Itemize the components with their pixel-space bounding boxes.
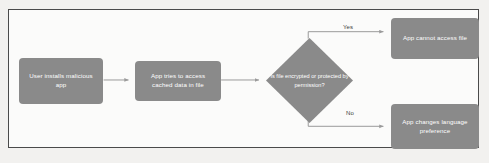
node-user-installs-malicious-app[interactable]: User installs malicious app <box>19 58 103 104</box>
node-app-changes-language-preference[interactable]: App changes language preference <box>391 104 479 149</box>
node-label: App changes language preference <box>396 118 474 136</box>
edge-label-no: No <box>346 110 354 116</box>
node-decision-is-file-encrypted[interactable]: Is file encrypted or protected by permis… <box>266 38 353 123</box>
node-label: App tries to access cached data in file <box>140 72 216 90</box>
edge-label-yes: Yes <box>343 24 353 30</box>
node-app-tries-to-access-cached-data[interactable]: App tries to access cached data in file <box>135 61 221 101</box>
diamond-shape <box>266 38 353 123</box>
diagram-layer: User installs malicious app App tries to… <box>9 10 478 147</box>
node-label: User installs malicious app <box>24 72 98 90</box>
node-label: App cannot access file <box>396 34 474 43</box>
node-app-cannot-access-file[interactable]: App cannot access file <box>391 18 479 59</box>
diagram-canvas: User installs malicious app App tries to… <box>8 9 479 148</box>
